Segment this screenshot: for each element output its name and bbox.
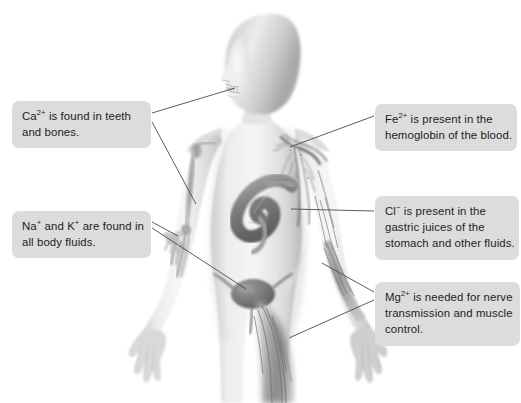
callout-magnesium-line3: control.: [385, 321, 510, 337]
charge-superscript: 2+: [401, 289, 410, 298]
head-hair: [221, 14, 301, 114]
callout-iron: Fe2+ is present in the hemoglobin of the…: [375, 104, 517, 151]
callout-iron-line2: hemoglobin of the blood.: [385, 127, 507, 143]
callout-chloride: Cl− is present in the gastric juices of …: [375, 196, 519, 260]
callout-calcium-line1: Ca2+ is found in teeth: [22, 108, 141, 124]
callout-calcium: Ca2+ is found in teeth and bones.: [12, 101, 151, 148]
callout-sodium-potassium: Na+ and K+ are found in all body fluids.: [12, 211, 151, 258]
callout-calcium-line2: and bones.: [22, 124, 141, 140]
callout-sodium-potassium-line1: Na+ and K+ are found in: [22, 218, 141, 234]
charge-superscript: 2+: [37, 108, 46, 117]
callout-magnesium-line1: Mg2+ is needed for nerve: [385, 289, 510, 305]
hand-left: [129, 328, 166, 383]
callout-sodium-potassium-line2: all body fluids.: [22, 234, 141, 250]
callout-magnesium: Mg2+ is needed for nerve transmission an…: [375, 282, 520, 346]
callout-chloride-line2: gastric juices of the: [385, 219, 509, 235]
callout-chloride-line1: Cl− is present in the: [385, 203, 509, 219]
callout-chloride-line3: stomach and other fluids.: [385, 235, 509, 251]
ion-body-diagram: Ca2+ is found in teeth and bones. Na+ an…: [0, 0, 521, 403]
callout-iron-line1: Fe2+ is present in the: [385, 111, 507, 127]
callout-magnesium-line2: transmission and muscle: [385, 305, 510, 321]
